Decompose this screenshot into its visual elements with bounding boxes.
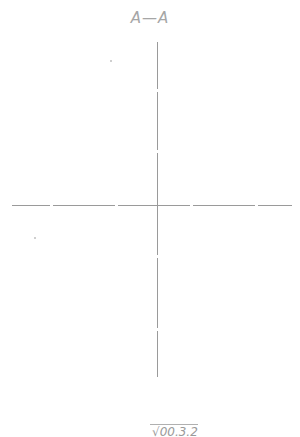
centerline-gap xyxy=(157,255,158,258)
centerline-gap xyxy=(115,205,118,206)
centerline-gap xyxy=(190,205,193,206)
speck-mark xyxy=(110,60,112,62)
horizontal-centerline xyxy=(12,205,292,206)
section-title: A—A xyxy=(0,9,300,27)
centerline-gap xyxy=(50,205,53,206)
centerline-gap xyxy=(157,328,158,331)
centerline-gap xyxy=(157,150,158,153)
speck-mark xyxy=(34,237,36,239)
centerline-gap xyxy=(255,205,258,206)
centerline-gap xyxy=(157,89,158,92)
vertical-centerline xyxy=(157,42,158,377)
surface-finish-label: √00.3.2 xyxy=(150,424,198,437)
